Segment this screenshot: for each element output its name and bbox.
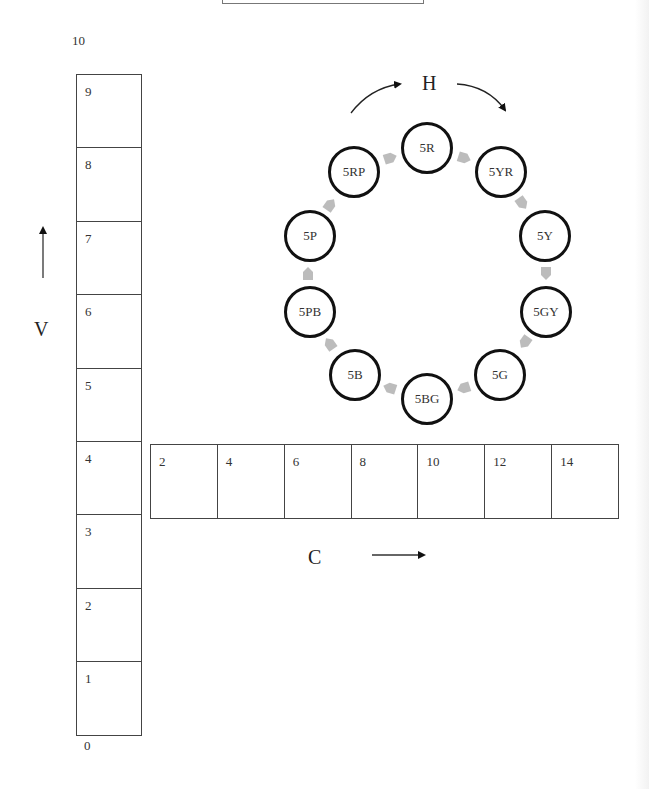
hue-node-5pb: 5PB [284, 286, 336, 338]
hue-node-5yr: 5YR [475, 146, 527, 198]
hue-node-5y: 5Y [519, 210, 571, 262]
connector-arrow-icon [457, 151, 472, 165]
hue-arc-right-arrow-icon [457, 84, 505, 110]
connector-arrow-icon [541, 267, 551, 280]
connector-arrow-icon [456, 381, 471, 395]
hue-node-5rp: 5RP [328, 146, 380, 198]
connector-arrow-icon [303, 267, 313, 280]
connector-arrow-icon [383, 151, 398, 165]
arrows-layer [0, 0, 649, 789]
connector-arrow-icon [382, 381, 397, 395]
hue-node-5bg: 5BG [401, 373, 453, 425]
hue-arc-left-arrow-icon [351, 84, 400, 113]
hue-node-5gy: 5GY [520, 286, 572, 338]
hue-node-5b: 5B [329, 349, 381, 401]
connector-arrow-icon [517, 334, 533, 350]
hue-node-5p: 5P [284, 210, 336, 262]
connector-arrow-icon [322, 335, 338, 351]
hue-node-5g: 5G [474, 349, 526, 401]
connector-arrow-icon [322, 196, 338, 212]
hue-node-5r: 5R [401, 122, 453, 174]
connector-arrow-icon [514, 195, 530, 211]
